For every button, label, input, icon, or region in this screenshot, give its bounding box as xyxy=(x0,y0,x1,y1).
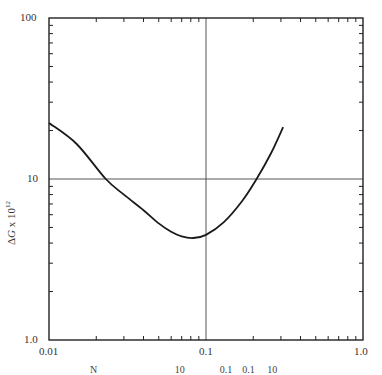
x-axis-caption-truncated: N 10 0.1 0.1 10 xyxy=(90,364,277,375)
x-tick-1: 1.0 xyxy=(354,345,368,357)
reference-gridlines xyxy=(49,18,363,340)
y-tick-1: 1.0 xyxy=(24,333,38,345)
data-curve xyxy=(49,123,283,238)
y-label-delta: Δ xyxy=(5,238,17,245)
y-label-var: G xyxy=(5,230,17,238)
y-label-exp: 12 xyxy=(4,201,12,208)
x-tick-0-01: 0.01 xyxy=(39,345,58,357)
y-axis-label: ΔG x 1012 xyxy=(4,201,17,245)
y-tick-100: 100 xyxy=(20,11,37,23)
y-label-times: x 10 xyxy=(5,208,17,230)
y-tick-10: 10 xyxy=(27,172,38,184)
x-tick-0-1: 0.1 xyxy=(199,345,213,357)
